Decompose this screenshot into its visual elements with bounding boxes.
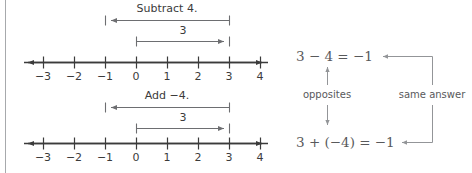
number-line-figure: Subtract 4. 3 −3 −2 −1 0 (0, 0, 472, 173)
same-answer-label: same answer (399, 89, 466, 100)
bottom-operation-label: Add −4. (145, 89, 190, 102)
bottom-operation-arrow (106, 103, 230, 113)
bottom-tick-label-0: −3 (35, 151, 51, 164)
bottom-number-line-group: Add −4. 3 −3 −2 −1 0 (24, 89, 268, 164)
top-operation-arrow (106, 16, 230, 26)
top-tick-label-5: 2 (195, 70, 202, 83)
bottom-span-label: 3 (180, 111, 187, 124)
top-tick-label-1: −2 (66, 70, 82, 83)
top-operation-label: Subtract 4. (137, 2, 198, 15)
top-span-arrow (137, 37, 230, 47)
bottom-tick-label-7: 4 (257, 151, 264, 164)
figure-canvas: Subtract 4. 3 −3 −2 −1 0 (0, 0, 472, 173)
bottom-span-arrow (137, 124, 230, 134)
top-tick-label-3: 0 (133, 70, 140, 83)
bottom-tick-label-3: 0 (133, 151, 140, 164)
opposites-label: opposites (303, 89, 351, 100)
top-span-label: 3 (180, 24, 187, 37)
top-tick-label-4: 1 (164, 70, 171, 83)
bottom-tick-label-4: 1 (164, 151, 171, 164)
top-tick-label-2: −1 (97, 70, 113, 83)
equation-subtraction: 3 − 4 = −1 (296, 48, 373, 64)
top-tick-label-0: −3 (35, 70, 51, 83)
bottom-tick-label-6: 3 (226, 151, 233, 164)
bottom-tick-label-5: 2 (195, 151, 202, 164)
top-tick-label-7: 4 (257, 70, 264, 83)
top-tick-label-6: 3 (226, 70, 233, 83)
bottom-tick-label-2: −1 (97, 151, 113, 164)
bottom-tick-label-1: −2 (66, 151, 82, 164)
top-number-line-group: Subtract 4. 3 −3 −2 −1 0 (24, 2, 268, 83)
equation-addition: 3 + (−4) = −1 (296, 134, 395, 150)
